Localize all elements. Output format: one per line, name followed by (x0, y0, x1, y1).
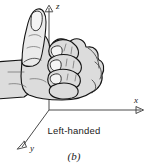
subfigure-label: (b) (68, 150, 81, 163)
finger-little (49, 83, 78, 99)
axis-y-line (22, 110, 49, 147)
axis-z-label: z (55, 1, 60, 11)
figure-illustration-svg: z x y Left-handed (b) (0, 0, 149, 165)
figure-left-handed-coordinate-system: z x y Left-handed (b) (0, 0, 149, 165)
axis-x-label: x (133, 95, 138, 105)
handedness-caption: Left-handed (48, 125, 101, 136)
hand-illustration (0, 9, 104, 100)
nail-ring (50, 74, 61, 84)
axis-y-label: y (29, 143, 34, 153)
axis-x (49, 106, 144, 113)
